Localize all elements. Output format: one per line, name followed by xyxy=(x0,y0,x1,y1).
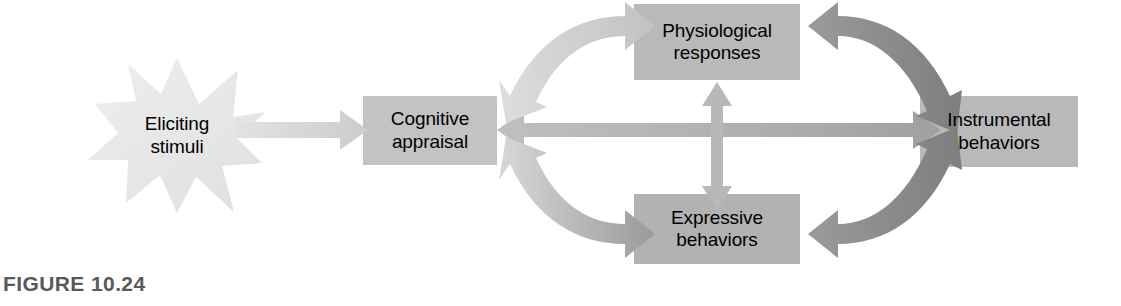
node-shape-cognitive-appraisal xyxy=(363,96,497,165)
emotion-components-diagram xyxy=(0,0,1121,306)
connector-physiological-to-expressive xyxy=(702,82,732,210)
connector-physiological-to-instrumental xyxy=(808,2,962,133)
connector-expressive-to-instrumental xyxy=(808,127,962,258)
figure-container: Eliciting stimuli Cognitive appraisal Ph… xyxy=(0,0,1121,306)
connector-appraisal-to-expressive xyxy=(499,137,655,258)
node-shape-physiological-responses xyxy=(634,4,800,80)
connector-appraisal-to-physiological xyxy=(499,2,655,123)
figure-caption: FIGURE 10.24 xyxy=(3,272,146,296)
